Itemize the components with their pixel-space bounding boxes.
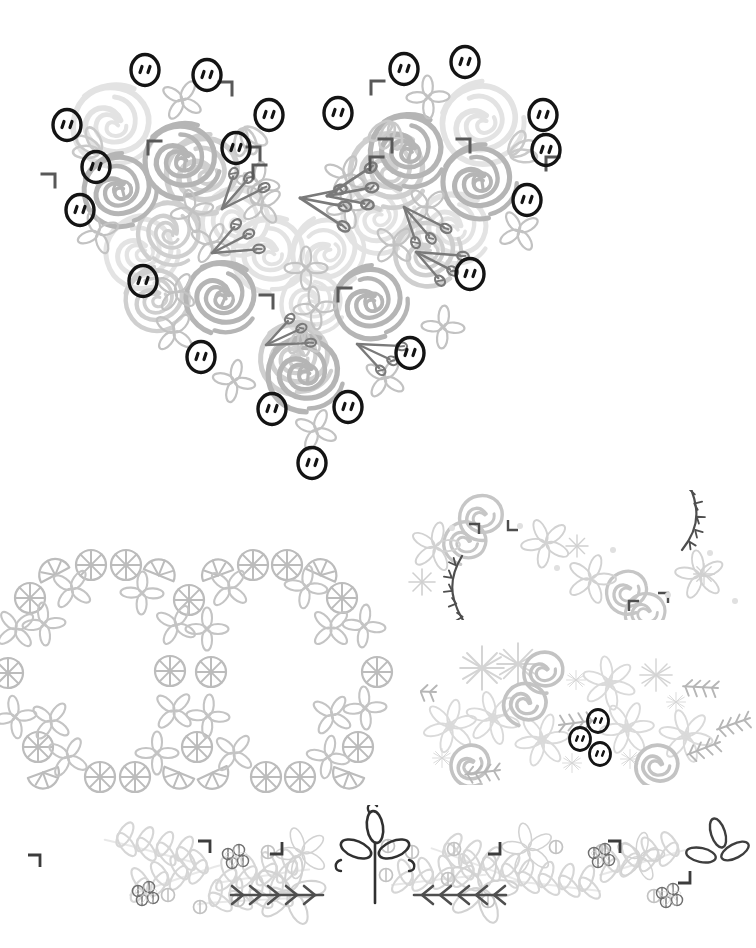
- heart-bouquet-composition: [0, 0, 751, 500]
- citrus-frame-composition: [0, 525, 414, 815]
- laurel-branch-group: [104, 819, 693, 933]
- button-icon: [334, 392, 362, 423]
- button-icon: [570, 728, 591, 751]
- button-icon: [131, 55, 159, 86]
- button-icon: [451, 47, 479, 78]
- button-icon: [590, 743, 611, 766]
- button-icon: [324, 98, 352, 129]
- swirl-tick-group: [469, 520, 668, 611]
- rose-swirl-divider-composition: [400, 490, 751, 620]
- button-icon: [529, 100, 557, 131]
- laurel-center-trefoil: [336, 805, 415, 903]
- laurel-tick-group: [28, 841, 690, 883]
- button-icon: [258, 394, 286, 425]
- laurel-border-composition: [0, 805, 751, 948]
- laurel-fern-arrow-group: [231, 886, 506, 904]
- button-icon: [390, 54, 418, 85]
- swirl-dot-group: [449, 523, 738, 604]
- button-icon: [53, 110, 81, 141]
- winter-band-composition: [420, 640, 756, 785]
- laurel-side-trefoil: [685, 817, 751, 865]
- button-icon: [187, 342, 215, 373]
- winter-rose-group: [445, 652, 682, 785]
- button-icon: [513, 185, 541, 216]
- button-icon: [298, 448, 326, 479]
- button-icon: [396, 338, 424, 369]
- button-icon: [193, 60, 221, 91]
- button-icon: [255, 100, 283, 131]
